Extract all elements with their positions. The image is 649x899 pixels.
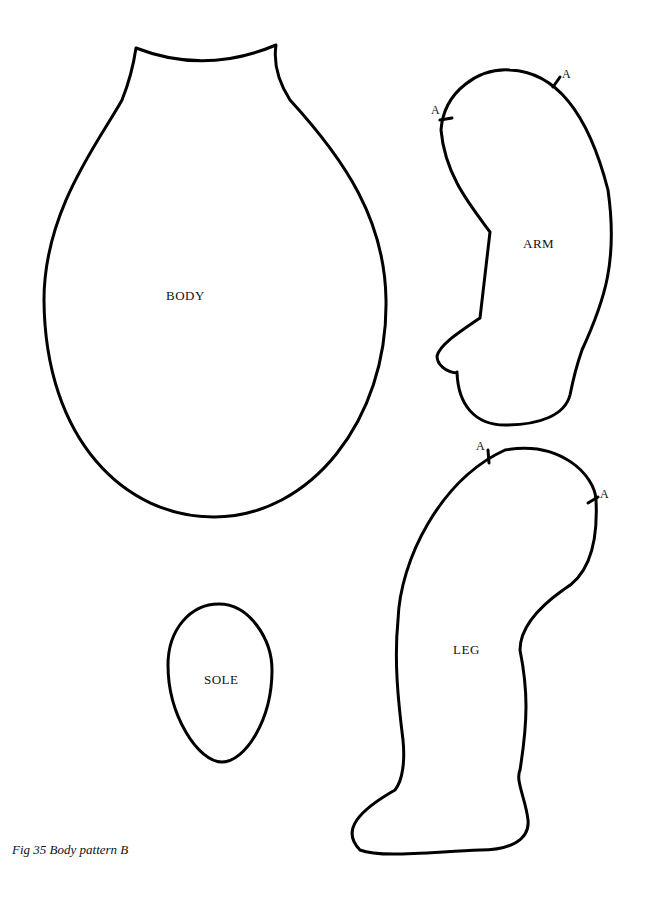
- leg-label: LEG: [453, 642, 480, 658]
- body-label: BODY: [166, 288, 205, 304]
- pattern-drawing: [0, 0, 649, 899]
- arm-mark-a-left: A: [431, 103, 440, 118]
- leg-mark-a-right: A: [600, 487, 609, 502]
- arm-label: ARM: [523, 236, 554, 252]
- figure-caption: Fig 35 Body pattern B: [12, 842, 128, 858]
- leg-mark-a-left: A: [476, 439, 485, 454]
- body-piece-outline: [44, 45, 386, 517]
- arm-mark-a-right: A: [562, 67, 571, 82]
- sole-label: SOLE: [204, 672, 239, 688]
